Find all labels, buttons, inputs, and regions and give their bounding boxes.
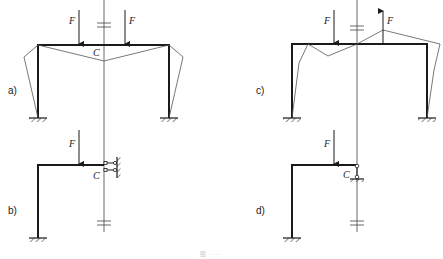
panel-d: F C d) <box>256 130 364 242</box>
force-label: F <box>386 15 394 26</box>
structural-diagram: F F C a) F F c) <box>0 0 443 259</box>
panel-label: d) <box>256 205 265 216</box>
sliding-support-icon <box>104 157 121 178</box>
force-label: F <box>323 15 331 26</box>
point-label: C <box>93 170 100 181</box>
panel-label: a) <box>8 85 17 96</box>
fixed-support-icon <box>29 238 47 242</box>
fixed-support-icon <box>283 238 301 242</box>
force-label: F <box>128 15 136 26</box>
roller-support-icon <box>350 164 364 182</box>
deflected-shape <box>24 45 183 118</box>
fixed-support-icon <box>283 118 301 122</box>
force-label: F <box>323 138 331 149</box>
frame-members <box>38 45 169 118</box>
force-label: F <box>68 138 76 149</box>
figure-caption: 图 ··· ··· <box>200 251 221 258</box>
fixed-support-icon <box>29 118 47 122</box>
panel-c: F F c) <box>256 0 440 130</box>
force-label: F <box>68 15 76 26</box>
fixed-support-icon <box>160 118 178 122</box>
panel-b: F C b) <box>8 130 121 242</box>
point-label: C <box>343 169 350 180</box>
panel-label: c) <box>256 85 264 96</box>
panel-a: F F C a) <box>8 0 183 130</box>
fixed-support-icon <box>418 118 436 122</box>
panel-label: b) <box>8 205 17 216</box>
frame-members <box>292 44 427 118</box>
point-label: C <box>93 47 100 58</box>
